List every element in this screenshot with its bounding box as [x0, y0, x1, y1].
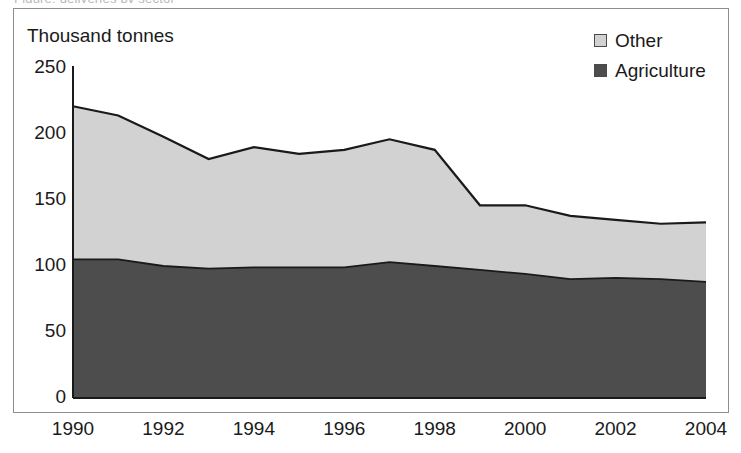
stacked-area-chart: Figure: deliveries by sector Thousand to… — [0, 0, 741, 453]
x-axis-tick-1994: 1994 — [224, 418, 284, 440]
y-axis-tick-100: 100 — [14, 254, 66, 276]
plot-surface — [0, 0, 741, 453]
y-axis-tick-200: 200 — [14, 122, 66, 144]
y-axis-tick-250: 250 — [14, 56, 66, 78]
area-series-agriculture — [73, 259, 706, 398]
y-axis-tick-0: 0 — [14, 386, 66, 408]
x-axis-tick-2004: 2004 — [676, 418, 736, 440]
x-axis-tick-2002: 2002 — [586, 418, 646, 440]
x-axis-tick-1992: 1992 — [133, 418, 193, 440]
x-axis-tick-1998: 1998 — [405, 418, 465, 440]
area-series-other — [73, 106, 706, 282]
y-axis-tick-50: 50 — [14, 320, 66, 342]
x-axis-tick-1996: 1996 — [314, 418, 374, 440]
x-axis-tick-2000: 2000 — [495, 418, 555, 440]
y-axis-tick-150: 150 — [14, 188, 66, 210]
x-axis-tick-1990: 1990 — [43, 418, 103, 440]
